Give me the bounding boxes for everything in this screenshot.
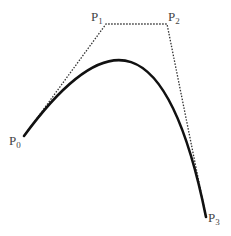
label-p0: P0 xyxy=(9,133,21,150)
label-p3: P3 xyxy=(208,210,220,227)
bezier-diagram: P0 P1 P2 P3 xyxy=(0,0,231,236)
bezier-curve xyxy=(24,60,206,217)
label-p2: P2 xyxy=(168,9,180,26)
label-p1: P1 xyxy=(91,9,103,26)
